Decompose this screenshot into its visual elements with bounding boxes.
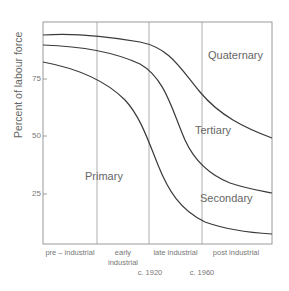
x-label-early-line2: industrial (100, 258, 146, 268)
date-marker-1920: c. 1920 (130, 268, 170, 278)
date-marker-1960: c. 1960 (182, 268, 222, 278)
y-tick-25: 25 (27, 189, 41, 198)
y-tick-50: 50 (27, 131, 41, 140)
region-label-tertiary: Tertiary (195, 124, 231, 136)
y-axis-label: Percent of labour force (12, 32, 24, 138)
y-tick-75: 75 (27, 74, 41, 83)
region-label-primary: Primary (85, 170, 123, 182)
x-label-early-industrial: early industrial (100, 248, 146, 268)
x-label-early-line1: early (100, 248, 146, 258)
x-label-pre-industrial: pre – industrial (42, 248, 98, 258)
curve-primary-secondary (43, 62, 272, 234)
x-label-late-industrial: late industrial (149, 248, 202, 258)
x-label-post-industrial: post industrial (204, 248, 268, 258)
region-label-quaternary: Quaternary (208, 49, 263, 61)
curve-secondary-tertiary (43, 45, 272, 193)
region-label-secondary: Secondary (200, 192, 253, 204)
